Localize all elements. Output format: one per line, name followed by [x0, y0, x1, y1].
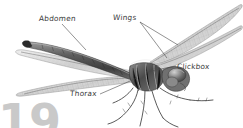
label-abdomen: Abdomen	[39, 14, 77, 23]
dragonfly-figure: Abdomen Wings Clickbox Thorax 19	[0, 0, 243, 128]
abdomen-segment	[22, 41, 135, 80]
label-thorax: Thorax	[70, 89, 98, 98]
legs	[108, 88, 213, 127]
leader-abdomen	[62, 24, 86, 50]
label-wings: Wings	[113, 13, 137, 22]
page-number: 19	[0, 98, 60, 128]
right-wings	[150, 5, 242, 71]
leader-wings-b	[140, 22, 167, 58]
label-clickbox: Clickbox	[177, 62, 210, 71]
leader-wings-a	[140, 22, 178, 45]
